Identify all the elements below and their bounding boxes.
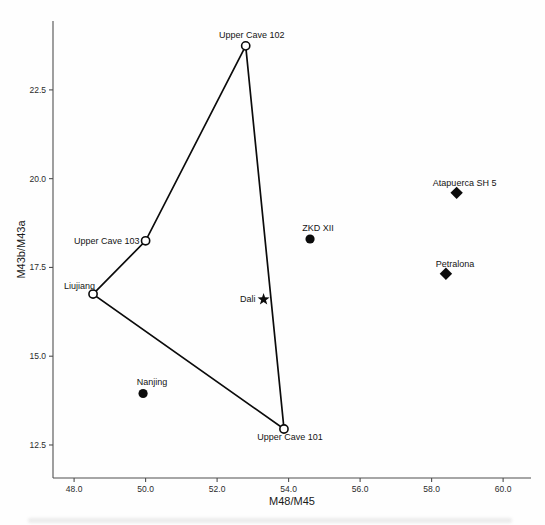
- point-label-liujiang: Liujiang: [64, 281, 95, 291]
- marker-open-circle-upper-cave-102: [242, 42, 250, 50]
- x-tick-label: 60.0: [495, 484, 512, 494]
- marker-open-circle-liujiang: [89, 290, 97, 298]
- x-tick-label: 56.0: [352, 484, 369, 494]
- point-label-upper-cave-101: Upper Cave 101: [257, 432, 323, 442]
- point-label-dali: Dali: [240, 294, 256, 304]
- x-tick-label: 54.0: [280, 484, 297, 494]
- marker-open-circle-upper-cave-103: [141, 237, 149, 245]
- point-label-zkd-xii: ZKD XII: [302, 223, 334, 233]
- marker-filled-circle-nanjing: [138, 389, 147, 398]
- y-tick-label: 17.5: [29, 262, 46, 272]
- marker-diamond-petralona: [440, 268, 452, 280]
- y-tick-label: 15.0: [29, 351, 46, 361]
- marker-diamond-atapuerca-sh-5: [450, 187, 462, 199]
- point-label-nanjing: Nanjing: [137, 377, 168, 387]
- y-tick-label: 22.5: [29, 85, 46, 95]
- point-label-upper-cave-102: Upper Cave 102: [219, 30, 285, 40]
- point-label-upper-cave-103: Upper Cave 103: [74, 236, 140, 246]
- point-label-petralona: Petralona: [436, 259, 475, 269]
- marker-star-dali: [258, 293, 270, 304]
- point-label-atapuerca-sh-5: Atapuerca SH 5: [433, 178, 497, 188]
- y-tick-label: 12.5: [29, 440, 46, 450]
- scatter-plot-figure: 48.050.052.054.056.058.060.012.515.017.5…: [0, 0, 545, 525]
- x-tick-label: 58.0: [423, 484, 440, 494]
- x-tick-label: 52.0: [209, 484, 226, 494]
- y-axis-title: M43b/M43a: [15, 220, 27, 279]
- x-axis-title: M48/M45: [269, 495, 315, 507]
- x-tick-label: 48.0: [66, 484, 83, 494]
- marker-filled-circle-zkd-xii: [305, 234, 314, 243]
- x-tick-label: 50.0: [137, 484, 154, 494]
- y-tick-label: 20.0: [29, 174, 46, 184]
- chart-canvas: 48.050.052.054.056.058.060.012.515.017.5…: [0, 0, 545, 525]
- page-scan-artifact: [28, 518, 512, 523]
